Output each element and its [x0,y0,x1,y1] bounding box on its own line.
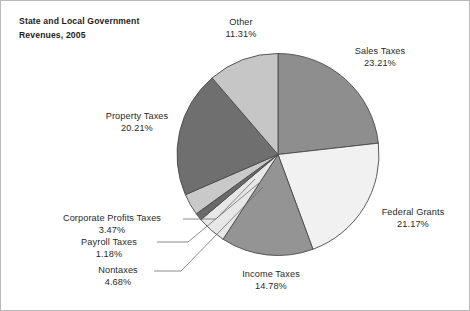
pie-label-nontaxes-name: Nontaxes [82,265,154,277]
pie-label-income-taxes-percent: 14.78% [223,281,319,293]
pie-label-income-taxes-name: Income Taxes [223,269,319,281]
pie-label-payroll-taxes: Payroll Taxes 1.18% [63,237,155,260]
pie-label-sales-taxes: Sales Taxes 23.21% [337,46,423,69]
pie-label-property-taxes-name: Property Taxes [85,111,189,123]
pie-label-federal-grants: Federal Grants 21.17% [365,207,461,230]
pie-label-corporate-profits-taxes: Corporate Profits Taxes 3.47% [43,213,181,236]
pie-label-sales-taxes-name: Sales Taxes [337,46,423,58]
pie-label-federal-grants-percent: 21.17% [365,219,461,231]
pie-label-other-name: Other [205,17,277,29]
pie-label-income-taxes: Income Taxes 14.78% [223,269,319,292]
figure-panel: State and Local Government Revenues, 200… [0,0,470,311]
pie-label-payroll-taxes-percent: 1.18% [63,249,155,261]
pie-label-sales-taxes-percent: 23.21% [337,58,423,70]
pie-label-property-taxes: Property Taxes 20.21% [85,111,189,134]
pie-slice-group [177,54,379,256]
pie-label-payroll-taxes-name: Payroll Taxes [63,237,155,249]
pie-label-property-taxes-percent: 20.21% [85,123,189,135]
pie-label-nontaxes: Nontaxes 4.68% [82,265,154,288]
pie-label-other-percent: 11.31% [205,29,277,41]
pie-label-corporate-profits-taxes-percent: 3.47% [43,225,181,237]
pie-label-federal-grants-name: Federal Grants [365,207,461,219]
pie-label-nontaxes-percent: 4.68% [82,277,154,289]
pie-label-other: Other 11.31% [205,17,277,40]
pie-label-corporate-profits-taxes-name: Corporate Profits Taxes [43,213,181,225]
